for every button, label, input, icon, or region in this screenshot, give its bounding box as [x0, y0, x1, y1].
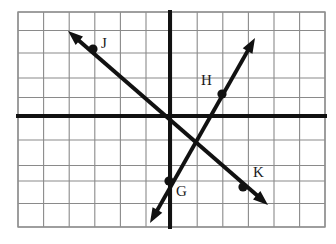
- point-K: [238, 182, 247, 191]
- line-GH-arrowhead-start: [150, 207, 162, 223]
- point-label-K: K: [253, 165, 264, 180]
- point-label-H: H: [201, 73, 212, 88]
- point-J: [88, 44, 97, 53]
- point-G: [164, 176, 173, 185]
- point-label-G: G: [176, 184, 187, 199]
- coordinate-plane-canvas: [0, 0, 336, 244]
- point-label-J: J: [101, 36, 107, 51]
- coordinate-plane-figure: JHGK: [0, 0, 336, 244]
- point-H: [217, 89, 226, 98]
